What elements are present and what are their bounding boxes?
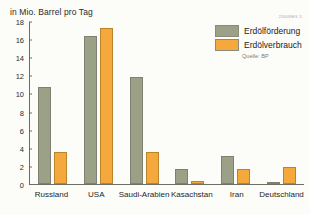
bar-consumption [237, 169, 250, 184]
x-axis-label: Russland [29, 190, 74, 199]
bar-consumption [100, 28, 113, 184]
bars-layer [30, 22, 304, 184]
y-tick-label: 18 [16, 18, 24, 27]
bar-production [84, 36, 97, 185]
y-tick-label: 10 [16, 90, 24, 99]
y-tick-label: 16 [16, 36, 24, 45]
x-axis-label: Kasachstan [169, 190, 214, 199]
bar-consumption [283, 167, 296, 184]
y-tick-label: 0 [20, 181, 24, 190]
bar-group [213, 22, 259, 184]
plot-area [29, 22, 304, 185]
x-axis-label: USA [74, 190, 119, 199]
x-axis-label: Deutschland [259, 190, 304, 199]
chart-axis-title: in Mio. Barrel pro Tag [10, 7, 93, 17]
x-axis-label: Saudi-Arabien [119, 190, 170, 199]
bar-chart: in Mio. Barrel pro Tag 23009EX-1 Erdölfö… [0, 0, 310, 215]
bar-group [258, 22, 304, 184]
bar-consumption [191, 181, 204, 184]
x-axis-label: Iran [214, 190, 259, 199]
bar-group [30, 22, 76, 184]
y-tick-label: 14 [16, 54, 24, 63]
bar-consumption [54, 152, 67, 184]
bar-production [130, 77, 143, 184]
bar-group [76, 22, 122, 184]
bar-production [221, 156, 234, 184]
y-tick-label: 4 [20, 144, 24, 153]
bar-production [267, 182, 280, 184]
bar-production [38, 87, 51, 184]
y-tick-label: 6 [20, 126, 24, 135]
bar-group [121, 22, 167, 184]
y-axis: 181614121086420 [0, 22, 29, 185]
x-axis-labels: RusslandUSASaudi-ArabienKasachstanIranDe… [29, 190, 304, 199]
bar-production [175, 169, 188, 184]
y-tick-label: 2 [20, 162, 24, 171]
y-tick-label: 12 [16, 72, 24, 81]
bar-group [167, 22, 213, 184]
y-tick-label: 8 [20, 108, 24, 117]
bar-consumption [146, 152, 159, 184]
catalog-id-label: 23009EX-1 [279, 14, 302, 19]
